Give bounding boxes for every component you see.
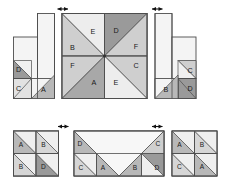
center-hub-dot	[103, 54, 106, 57]
bottom-left-grid[interactable]: A B B D	[14, 131, 59, 176]
diagram-root: D C A E D B F F C A E	[0, 0, 226, 185]
bottom-center-net[interactable]: D C C A B D	[74, 131, 164, 176]
puzzle-diagram: D C A E D B F F C A E	[0, 0, 226, 185]
center-pinwheel[interactable]: E D B F F C A E	[62, 14, 147, 99]
bottom-right-grid[interactable]: A B C A	[172, 131, 217, 176]
